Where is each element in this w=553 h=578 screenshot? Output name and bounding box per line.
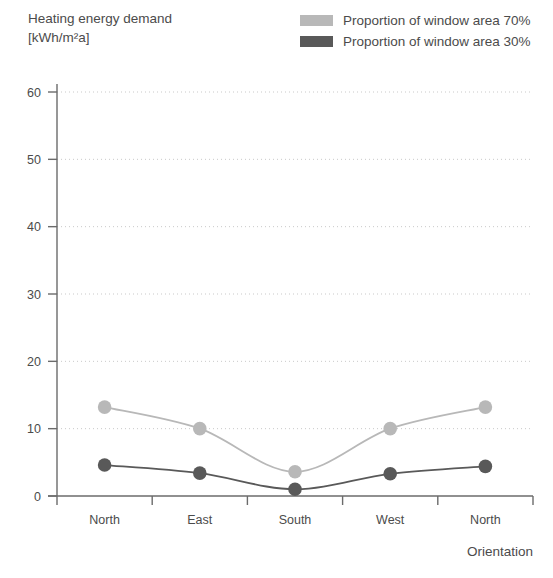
data-point-marker (288, 482, 302, 496)
data-point-marker (193, 466, 207, 480)
x-tick-label: South (279, 513, 312, 527)
y-tick-label: 0 (34, 490, 41, 504)
data-point-marker (383, 467, 397, 481)
data-point-marker (98, 400, 112, 414)
y-axis-ticks: 0102030405060 (27, 86, 57, 504)
x-tick-label: West (376, 513, 405, 527)
y-tick-label: 30 (27, 288, 41, 302)
plot-svg: 0102030405060 NorthEastSouthWestNorth Or… (0, 0, 553, 578)
y-tick-label: 60 (27, 86, 41, 100)
y-tick-label: 50 (27, 153, 41, 167)
y-tick-label: 40 (27, 220, 41, 234)
y-tick-label: 10 (27, 422, 41, 436)
x-tick-label: North (470, 513, 501, 527)
x-axis-label: Orientation (467, 544, 533, 559)
x-tick-label: North (89, 513, 120, 527)
gridlines (57, 92, 533, 429)
series-line (105, 407, 486, 472)
plot-area: 0102030405060 NorthEastSouthWestNorth Or… (0, 0, 553, 578)
data-point-marker (288, 465, 302, 479)
data-point-marker (193, 422, 207, 436)
chart-container: Heating energy demand [kWh/m²a] Proporti… (0, 0, 553, 578)
data-point-marker (479, 460, 493, 474)
data-point-marker (383, 422, 397, 436)
x-axis-ticks: NorthEastSouthWestNorth (57, 496, 533, 527)
data-point-marker (98, 458, 112, 472)
y-tick-label: 20 (27, 355, 41, 369)
x-tick-label: East (187, 513, 213, 527)
axis-lines (48, 84, 533, 496)
data-point-marker (479, 400, 493, 414)
data-series (98, 400, 492, 496)
